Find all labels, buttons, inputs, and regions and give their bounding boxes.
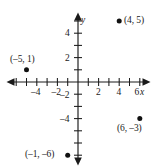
y-tick-label-neg2: –2	[60, 91, 69, 101]
y-tick-label-2: 2	[65, 54, 70, 64]
coordinate-plane-figure: y x –4 –2 2 4 6 4 2 –2 –4 (4, 5) (–5, 1)…	[0, 0, 157, 167]
data-point-4-5	[117, 19, 122, 24]
x-tick-label-4: 4	[117, 88, 122, 98]
x-tick-label-6: 6	[135, 88, 140, 98]
point-label-neg5-1: (–5, 1)	[10, 55, 35, 65]
x-tick-label-2: 2	[96, 88, 101, 98]
y-axis-label: y	[81, 16, 85, 26]
y-tick-label-4: 4	[65, 29, 70, 39]
data-point-neg1-neg6	[65, 153, 70, 158]
y-tick-label-neg4: –4	[60, 115, 69, 125]
x-axis-right-arrow-icon	[143, 78, 151, 86]
data-point-6-neg3	[137, 116, 142, 121]
x-tick-label-neg4: –4	[31, 88, 40, 98]
point-label-6-neg3: (6, –3)	[117, 124, 142, 134]
data-point-neg5-1	[24, 67, 29, 72]
point-label-neg1-neg6: (–1, –6)	[25, 150, 54, 160]
x-axis-left-arrow-icon	[7, 78, 15, 86]
x-axis-label: x	[140, 88, 144, 98]
y-axis-bottom-arrow-icon	[74, 158, 82, 166]
point-label-4-5: (4, 5)	[124, 16, 144, 26]
